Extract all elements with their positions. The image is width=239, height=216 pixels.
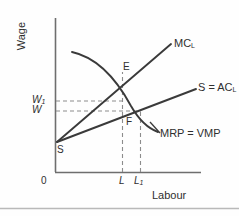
mc-label-main: MC — [174, 37, 191, 49]
sac-label-sub: L — [233, 86, 237, 93]
supply-ac-labour-label: S = ACL — [198, 82, 236, 93]
point-label-S: S — [57, 145, 64, 155]
y-axis-label: Wage — [16, 22, 27, 50]
mc-label-sub: L — [191, 42, 195, 49]
wage-tick-W-main: W — [32, 104, 41, 115]
diagram-canvas: Wage Labour 0 MCL S = ACL MRP = VMP E F … — [0, 0, 239, 216]
labour-tick-L: L — [119, 176, 125, 186]
sac-label-main: S = AC — [198, 81, 233, 93]
origin-label: 0 — [41, 176, 47, 186]
mc-labour-line — [57, 44, 171, 142]
wage-tick-W1-sub: 1 — [41, 98, 45, 105]
point-label-F: F — [126, 117, 132, 127]
mc-labour-label: MCL — [174, 38, 195, 49]
labour-tick-L1-sub: 1 — [140, 179, 144, 186]
labour-tick-L-main: L — [119, 175, 125, 186]
labour-tick-L1: L1 — [134, 176, 143, 186]
x-axis-label: Labour — [152, 190, 186, 201]
wage-tick-W: W — [32, 105, 41, 115]
point-label-E: E — [123, 62, 130, 72]
mrp-vmp-label: MRP = VMP — [160, 128, 221, 139]
